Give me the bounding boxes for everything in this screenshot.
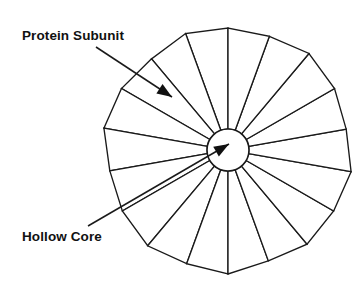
capsid-diagram: Protein Subunit Hollow Core xyxy=(0,0,363,289)
protein-subunit-label: Protein Subunit xyxy=(22,28,124,43)
diagram-canvas: Protein Subunit Hollow Core xyxy=(0,0,363,289)
hollow-core-circle xyxy=(207,129,249,171)
hollow-core-label: Hollow Core xyxy=(22,229,102,244)
